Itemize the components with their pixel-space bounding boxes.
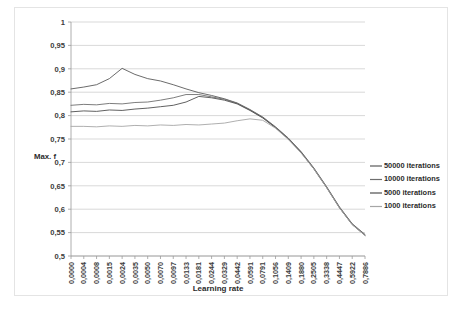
x-tick-label: 0,0008 [92, 262, 101, 284]
x-tick-label: 0,0181 [194, 262, 203, 284]
series-line-1000 [71, 119, 365, 236]
x-tick-label: 0,0015 [105, 262, 114, 284]
y-axis-tick-labels: 0,50,550,60,650,70,750,80,850,90,951 [50, 18, 66, 261]
x-tick-label: 0,4447 [335, 262, 344, 284]
y-tick-label: 0,75 [50, 135, 66, 144]
legend-label: 1000 iterations [384, 201, 436, 210]
x-tick-label: 0,0791 [258, 262, 267, 284]
x-tick-label: 0,3338 [322, 262, 331, 284]
x-tick-label: 0,0050 [143, 262, 152, 284]
x-tick-label: 0,0329 [220, 262, 229, 284]
y-tick-label: 0,9 [54, 65, 65, 74]
x-tick-label: 0,0097 [169, 262, 178, 284]
y-tick-label: 0,65 [50, 182, 66, 191]
x-axis-title: Learning rate [193, 284, 244, 293]
y-tick-label: 0,7 [54, 158, 65, 167]
x-tick-label: 0,0004 [79, 262, 88, 284]
legend-label: 10000 iterations [384, 174, 440, 183]
chart-container: 0,50,550,60,650,70,750,80,850,90,951 0,0… [0, 0, 463, 316]
legend-label: 50000 iterations [384, 161, 440, 170]
series-line-5000 [71, 96, 365, 235]
legend-label: 5000 iterations [384, 188, 436, 197]
y-tick-label: 0,8 [54, 111, 65, 120]
y-tick-label: 0,55 [50, 228, 66, 237]
x-tick-label: 0,7886 [361, 262, 370, 284]
x-tick-label: 0,0133 [182, 262, 191, 284]
x-tick-label: 0,1409 [284, 262, 293, 284]
line-chart: 0,50,550,60,650,70,750,80,850,90,951 0,0… [0, 0, 463, 316]
gridlines [68, 22, 365, 256]
x-tick-label: 0,0000 [67, 262, 76, 284]
y-tick-label: 0,95 [50, 41, 66, 50]
x-tick-label: 0,0035 [131, 262, 140, 284]
x-tick-label: 0,1056 [271, 262, 280, 284]
y-tick-label: 0,5 [54, 252, 65, 261]
x-axis-tick-labels: 0,00000,00040,00080,00150,00240,00350,00… [67, 262, 370, 284]
y-tick-label: 0,6 [54, 205, 65, 214]
legend: 50000 iterations10000 iterations5000 ite… [370, 161, 440, 211]
x-tick-label: 0,2505 [309, 262, 318, 284]
y-axis-title: Max. f [34, 152, 56, 161]
x-tick-label: 0,0244 [207, 262, 216, 284]
y-tick-label: 1 [61, 18, 66, 27]
x-tick-label: 0,0442 [233, 262, 242, 284]
x-tick-label: 0,0070 [156, 262, 165, 284]
x-tick-label: 0,1880 [297, 262, 306, 284]
y-tick-label: 0,85 [50, 88, 66, 97]
x-tick-label: 0,0024 [118, 262, 127, 284]
x-tick-label: 0,5922 [348, 262, 357, 284]
series-lines [71, 68, 365, 235]
x-axis-tickmarks [71, 256, 365, 259]
x-tick-label: 0,0591 [246, 262, 255, 284]
